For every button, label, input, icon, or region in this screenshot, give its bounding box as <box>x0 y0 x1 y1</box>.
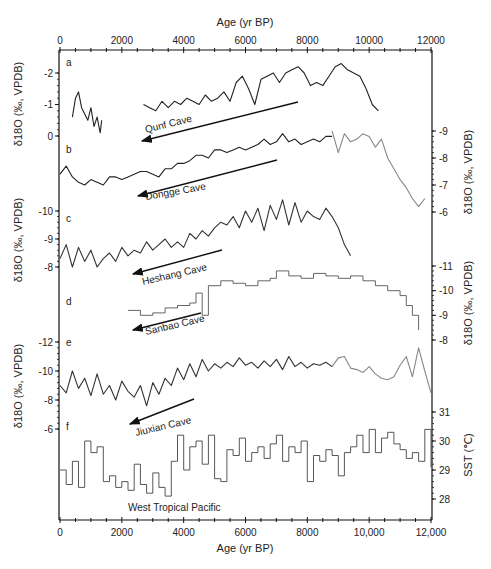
y-tick-label-d: -9 <box>439 310 448 321</box>
y-tick-label-d: -10 <box>439 285 454 296</box>
bottom-x-tick-label: 2000 <box>111 527 134 538</box>
series-line-a <box>144 64 379 111</box>
top-x-tick-label: 12000 <box>417 35 445 46</box>
series-line-b <box>332 131 425 207</box>
top-x-tick-label: 4000 <box>173 35 196 46</box>
y-tick-label-e: -10 <box>39 366 54 377</box>
top-x-tick-label: 2000 <box>111 35 134 46</box>
bottom-x-tick-label: 12,000 <box>416 527 447 538</box>
y-axis-title-f: SST (℃) <box>462 433 474 477</box>
top-x-tick-label: 8000 <box>296 35 319 46</box>
y-tick-label-e: -12 <box>39 337 54 348</box>
top-x-axis-title: Age (yr BP) <box>217 16 274 28</box>
y-axis-title-b: δ18O (‰, VPDB) <box>462 130 474 214</box>
series-line-a <box>72 92 101 133</box>
panel-letter-a: a <box>66 57 72 68</box>
series-line-b <box>60 134 332 185</box>
y-tick-label-a: -1 <box>44 99 53 110</box>
y-tick-label-b: -8 <box>439 153 448 164</box>
y-tick-label-c: -10 <box>39 206 54 217</box>
y-axis-title-a: δ18O (‰, VPDB) <box>12 62 24 146</box>
y-tick-label-f: 31 <box>439 407 451 418</box>
y-tick-label-e: -6 <box>44 424 53 435</box>
y-tick-label-c: -8 <box>44 262 53 273</box>
series-label-e: Jiuxian Cave <box>134 414 193 438</box>
series-line-c <box>60 200 351 267</box>
series-label-b: Dongge Cave <box>144 180 207 202</box>
series-label-a: Qunf Cave <box>144 113 193 135</box>
bottom-x-tick-label: 0 <box>57 527 63 538</box>
series-line-e <box>332 348 431 393</box>
bottom-x-tick-label: 4000 <box>173 527 196 538</box>
panel-letter-d: d <box>66 296 72 307</box>
series-line-f <box>60 429 431 496</box>
bottom-x-axis-title: Age (yr BP) <box>217 542 274 554</box>
y-axis-title-e: δ18O (‰, VPDB) <box>12 344 24 428</box>
y-tick-label-a: 0 <box>47 131 53 142</box>
bottom-x-tick-label: 6000 <box>234 527 257 538</box>
panel-letter-e: e <box>66 337 72 348</box>
top-x-tick-label: 6000 <box>234 35 257 46</box>
y-axis-title-d: δ18O (‰, VPDB) <box>462 261 474 345</box>
y-tick-label-c: -9 <box>44 234 53 245</box>
bottom-x-tick-label: 8000 <box>296 527 319 538</box>
series-line-e <box>60 357 332 406</box>
paleoclimate-chart: 0020002000400040006000600080008000100001… <box>0 0 491 569</box>
y-tick-label-b: -6 <box>439 207 448 218</box>
panel-letter-b: b <box>66 144 72 155</box>
series-label-c: Heshang Cave <box>141 261 208 287</box>
y-tick-label-d: -11 <box>439 261 453 272</box>
top-x-tick-label: 0 <box>57 35 63 46</box>
chart-svg: 0020002000400040006000600080008000100001… <box>0 0 491 569</box>
series-label-d: Sanbao Cave <box>144 312 206 336</box>
panel-letter-f: f <box>66 421 69 432</box>
y-tick-label-f: 30 <box>439 436 451 447</box>
y-tick-label-e: -8 <box>44 395 53 406</box>
bottom-x-tick-label: 10,000 <box>354 527 385 538</box>
y-tick-label-d: -8 <box>439 335 448 346</box>
y-tick-label-f: 28 <box>439 494 451 505</box>
y-tick-label-f: 29 <box>439 465 451 476</box>
top-x-tick-label: 10000 <box>355 35 383 46</box>
y-axis-title-c: δ18O (‰, VPDB) <box>12 198 24 282</box>
series-label-f: West Tropical Pacific <box>128 502 221 513</box>
y-tick-label-b: -7 <box>439 180 448 191</box>
y-tick-label-a: -2 <box>44 68 53 79</box>
y-tick-label-b: -9 <box>439 126 448 137</box>
panel-letter-c: c <box>66 213 71 224</box>
